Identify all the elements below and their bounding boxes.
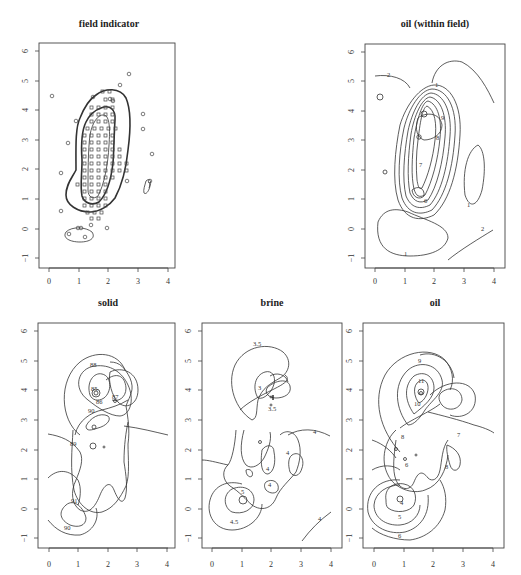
x-axis: [375, 268, 494, 272]
figure-canvas: field indicator 0 1 2 3 4 6 5 4: [0, 0, 521, 575]
svg-text:9: 9: [441, 114, 444, 121]
field-contours: [65, 90, 151, 242]
svg-text:1: 1: [347, 197, 356, 201]
svg-text:8: 8: [401, 433, 404, 440]
svg-text:6: 6: [20, 329, 29, 333]
panel-brine: brine 0 1 2 3 4 6 5 4 3 2 1 0: [184, 297, 342, 569]
svg-text:1: 1: [404, 250, 407, 257]
svg-text:4: 4: [491, 560, 495, 569]
svg-text:0: 0: [372, 560, 376, 569]
svg-text:2: 2: [481, 225, 484, 232]
svg-text:3: 3: [347, 138, 356, 142]
svg-text:87: 87: [112, 393, 119, 400]
y-tick-labels: 6 5 4 3 2 1 0 −1: [184, 329, 193, 542]
plot-frame: [365, 44, 505, 268]
svg-text:8: 8: [436, 134, 439, 141]
svg-text:0: 0: [210, 560, 214, 569]
svg-text:1: 1: [435, 81, 438, 88]
svg-text:4: 4: [184, 388, 193, 392]
svg-text:1: 1: [402, 560, 406, 569]
svg-text:0: 0: [373, 277, 377, 286]
svg-text:0: 0: [184, 507, 193, 511]
y-tick-labels: 6 5 4 3 2 1 0 −1: [20, 329, 29, 542]
svg-text:3: 3: [21, 138, 30, 142]
panel-solid: solid 0 1 2 3 4 6 5 4 3 2 1 0: [20, 297, 175, 569]
svg-text:−1: −1: [21, 254, 30, 263]
svg-text:2: 2: [21, 167, 30, 171]
svg-text:86: 86: [96, 398, 103, 405]
brine-contours: [202, 346, 331, 541]
svg-text:1: 1: [20, 477, 29, 481]
svg-text:0: 0: [21, 227, 30, 231]
svg-text:1: 1: [77, 277, 81, 286]
x-axis: [374, 548, 493, 552]
svg-text:2: 2: [20, 448, 29, 452]
svg-text:4: 4: [21, 108, 30, 112]
svg-text:2: 2: [387, 71, 390, 78]
svg-text:3: 3: [299, 560, 303, 569]
svg-text:−1: −1: [184, 534, 193, 543]
svg-text:85: 85: [91, 385, 98, 392]
y-tick-labels: 6 5 4 3 2 1 0 −1: [21, 49, 30, 262]
plot-frame: [363, 323, 504, 548]
svg-text:0: 0: [47, 277, 51, 286]
svg-text:4: 4: [347, 109, 356, 113]
svg-text:6: 6: [347, 50, 356, 54]
svg-text:3: 3: [184, 418, 193, 422]
svg-text:5: 5: [347, 79, 356, 83]
svg-text:−1: −1: [345, 534, 354, 543]
x-tick-labels: 0 1 2 3 4: [47, 560, 169, 569]
svg-text:5: 5: [20, 359, 29, 363]
svg-text:2: 2: [106, 560, 110, 569]
svg-text:4: 4: [165, 560, 169, 569]
svg-text:91: 91: [71, 497, 78, 504]
svg-text:6: 6: [345, 329, 354, 333]
svg-text:3: 3: [345, 418, 354, 422]
svg-text:3: 3: [20, 418, 29, 422]
svg-text:5: 5: [398, 513, 401, 520]
svg-text:0: 0: [345, 507, 354, 511]
svg-text:1: 1: [240, 560, 244, 569]
svg-text:4: 4: [286, 449, 290, 456]
svg-text:3: 3: [461, 560, 465, 569]
x-axis: [212, 548, 331, 552]
svg-text:4: 4: [318, 515, 322, 522]
svg-text:4: 4: [492, 277, 496, 286]
svg-text:1: 1: [21, 197, 30, 201]
svg-text:1: 1: [403, 277, 407, 286]
svg-text:3: 3: [258, 384, 261, 391]
x-axis: 0 1 2 3 4: [47, 268, 170, 286]
svg-text:6: 6: [405, 461, 409, 468]
y-axis: [361, 52, 365, 258]
svg-text:10: 10: [414, 400, 421, 407]
svg-text:−1: −1: [20, 534, 29, 543]
svg-text:1: 1: [345, 477, 354, 481]
svg-text:2: 2: [345, 448, 354, 452]
y-axis: [198, 331, 202, 538]
panel-field-indicator: field indicator 0 1 2 3 4 6 5 4: [21, 18, 175, 286]
svg-text:2: 2: [106, 277, 110, 286]
svg-text:4: 4: [313, 428, 317, 435]
y-axis: [34, 331, 38, 538]
svg-text:3: 3: [462, 277, 466, 286]
svg-text:3: 3: [136, 277, 140, 286]
oil-labels: 9 11 10 8 7 8 6 4 5 6: [398, 357, 461, 539]
panel-title: oil: [430, 297, 441, 308]
svg-text:5: 5: [345, 359, 354, 363]
plot-frame: [38, 323, 175, 548]
oil-within-contours: [375, 61, 494, 260]
svg-text:90: 90: [64, 524, 71, 531]
panel-oil: oil 0 1 2 3 4 6 5 4 3 2 1 0: [345, 297, 504, 569]
svg-text:1: 1: [76, 560, 80, 569]
svg-text:7: 7: [457, 431, 461, 438]
svg-text:6: 6: [398, 532, 402, 539]
x-axis: [49, 548, 168, 552]
svg-text:9: 9: [418, 357, 421, 364]
svg-text:4: 4: [400, 499, 404, 506]
panel-oil-within-field: oil (within field) 0 1 2 3 4 6 5 4 3 2: [347, 18, 505, 286]
panel-title: field indicator: [79, 18, 140, 29]
y-axis: [35, 51, 39, 258]
svg-text:0: 0: [347, 227, 356, 231]
svg-text:4: 4: [20, 388, 29, 392]
svg-text:2: 2: [269, 560, 273, 569]
